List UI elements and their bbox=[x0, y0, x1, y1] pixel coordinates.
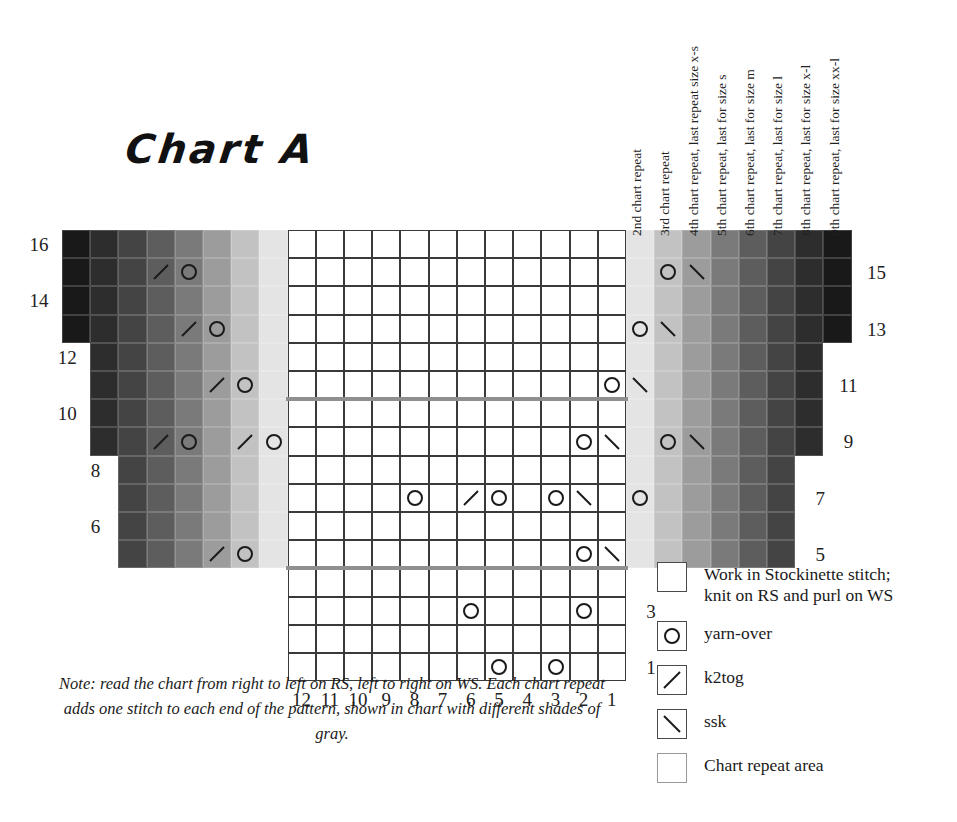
chart-cell bbox=[147, 230, 175, 258]
chart-cell bbox=[288, 597, 316, 625]
chart-cell bbox=[823, 258, 851, 286]
chart-cell bbox=[541, 258, 569, 286]
chart-cell bbox=[118, 456, 146, 484]
chart-cell bbox=[344, 427, 372, 455]
chart-cell bbox=[429, 230, 457, 258]
chart-cell bbox=[316, 568, 344, 596]
chart-cell bbox=[570, 512, 598, 540]
chart-cell bbox=[541, 343, 569, 371]
chart-cell bbox=[175, 484, 203, 512]
legend-item: k2tog bbox=[657, 665, 952, 695]
chart-cell bbox=[485, 371, 513, 399]
chart-cell bbox=[541, 568, 569, 596]
chart-cell bbox=[372, 625, 400, 653]
chart-cell bbox=[513, 540, 541, 568]
chart-cell bbox=[485, 230, 513, 258]
chart-cell bbox=[147, 456, 175, 484]
chart-cell bbox=[541, 315, 569, 343]
chart-cell bbox=[795, 258, 823, 286]
chart-cell bbox=[118, 230, 146, 258]
chart-cell bbox=[570, 315, 598, 343]
chart-cell bbox=[175, 427, 203, 455]
legend-item: Work in Stockinette stitch;knit on RS an… bbox=[657, 562, 952, 607]
chart-cell bbox=[654, 258, 682, 286]
chart-cell bbox=[316, 286, 344, 314]
chart-cell bbox=[598, 568, 626, 596]
chart-cell bbox=[147, 315, 175, 343]
chart-cell bbox=[147, 258, 175, 286]
row-number-label: 12 bbox=[50, 347, 84, 369]
chart-cell bbox=[316, 343, 344, 371]
chart-cell bbox=[429, 399, 457, 427]
chart-cell bbox=[711, 427, 739, 455]
chart-cell bbox=[344, 512, 372, 540]
chart-cell bbox=[175, 456, 203, 484]
chart-cell bbox=[682, 371, 710, 399]
repeat-column-label: 5th chart repeat, last for size s bbox=[714, 74, 730, 236]
chart-cell bbox=[316, 371, 344, 399]
chart-cell bbox=[767, 399, 795, 427]
chart-cell bbox=[62, 230, 90, 258]
chart-cell bbox=[795, 315, 823, 343]
chart-cell bbox=[823, 315, 851, 343]
chart-cell bbox=[175, 315, 203, 343]
chart-cell bbox=[626, 456, 654, 484]
chart-cell bbox=[259, 315, 287, 343]
chart-cell bbox=[598, 625, 626, 653]
chart-cell bbox=[372, 286, 400, 314]
chart-cell bbox=[682, 456, 710, 484]
legend: Work in Stockinette stitch;knit on RS an… bbox=[657, 562, 952, 797]
chart-cell bbox=[711, 399, 739, 427]
chart-cell bbox=[457, 568, 485, 596]
chart-cell bbox=[344, 286, 372, 314]
chart-cell bbox=[457, 456, 485, 484]
chart-cell bbox=[795, 427, 823, 455]
chart-cell bbox=[344, 230, 372, 258]
chart-cell bbox=[598, 484, 626, 512]
row-number-label: 6 bbox=[78, 516, 112, 538]
chart-cell bbox=[400, 427, 428, 455]
row-number-label: 8 bbox=[78, 460, 112, 482]
chart-cell bbox=[259, 286, 287, 314]
chart-cell bbox=[259, 512, 287, 540]
chart-cell bbox=[259, 484, 287, 512]
chart-cell bbox=[541, 484, 569, 512]
legend-item-label: Chart repeat area bbox=[704, 753, 824, 776]
chart-cell bbox=[457, 597, 485, 625]
chart-cell bbox=[570, 286, 598, 314]
chart-cell bbox=[118, 371, 146, 399]
chart-cell bbox=[203, 512, 231, 540]
chart-cell bbox=[147, 286, 175, 314]
chart-cell bbox=[711, 343, 739, 371]
chart-cell bbox=[316, 427, 344, 455]
chart-cell bbox=[372, 371, 400, 399]
chart-cell bbox=[429, 625, 457, 653]
chart-cell bbox=[372, 484, 400, 512]
chart-cell bbox=[231, 343, 259, 371]
chart-cell bbox=[739, 484, 767, 512]
chart-cell bbox=[90, 315, 118, 343]
chart-cell bbox=[259, 343, 287, 371]
chart-cell bbox=[457, 427, 485, 455]
chart-cell bbox=[513, 625, 541, 653]
chart-cell bbox=[598, 258, 626, 286]
chart-cell bbox=[316, 230, 344, 258]
chart-cell bbox=[231, 512, 259, 540]
chart-cell bbox=[823, 286, 851, 314]
row-number-label: 7 bbox=[803, 488, 837, 510]
chart-cell bbox=[739, 427, 767, 455]
chart-cell bbox=[203, 286, 231, 314]
chart-cell bbox=[682, 258, 710, 286]
chart-cell bbox=[90, 399, 118, 427]
chart-cell bbox=[400, 258, 428, 286]
chart-cell bbox=[400, 371, 428, 399]
chart-cell bbox=[598, 456, 626, 484]
chart-cell bbox=[767, 512, 795, 540]
chart-cell bbox=[288, 484, 316, 512]
chart-cell bbox=[118, 512, 146, 540]
chart-cell bbox=[231, 399, 259, 427]
chart-cell bbox=[400, 315, 428, 343]
chart-cell bbox=[175, 230, 203, 258]
chart-cell bbox=[795, 343, 823, 371]
chart-cell bbox=[118, 484, 146, 512]
